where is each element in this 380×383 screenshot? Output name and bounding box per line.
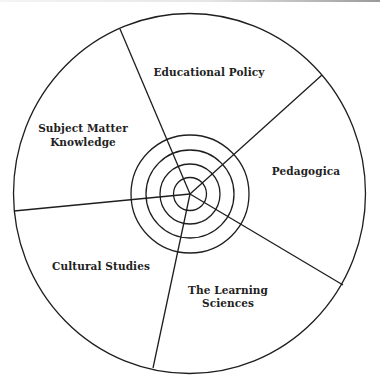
segment-label-subject-matter-line1: Subject Matter [38,122,128,134]
divider-top-left [120,29,190,194]
segment-label-pedagogica: Pedagogica [272,165,340,177]
segment-label-cultural-studies: Cultural Studies [52,260,150,272]
segment-label-educational-policy: Educational Policy [154,66,266,78]
divider-bottom-right [190,194,343,285]
segmented-circle-diagram: Educational Policy Pedagogica The Learni… [0,0,380,383]
divider-bottom [153,194,190,368]
segment-label-learning-sciences-line1: The Learning [188,284,269,296]
segment-dividers [14,29,343,368]
segment-label-learning-sciences-line2: Sciences [202,297,254,309]
segment-label-subject-matter-line2: Knowledge [50,136,116,148]
